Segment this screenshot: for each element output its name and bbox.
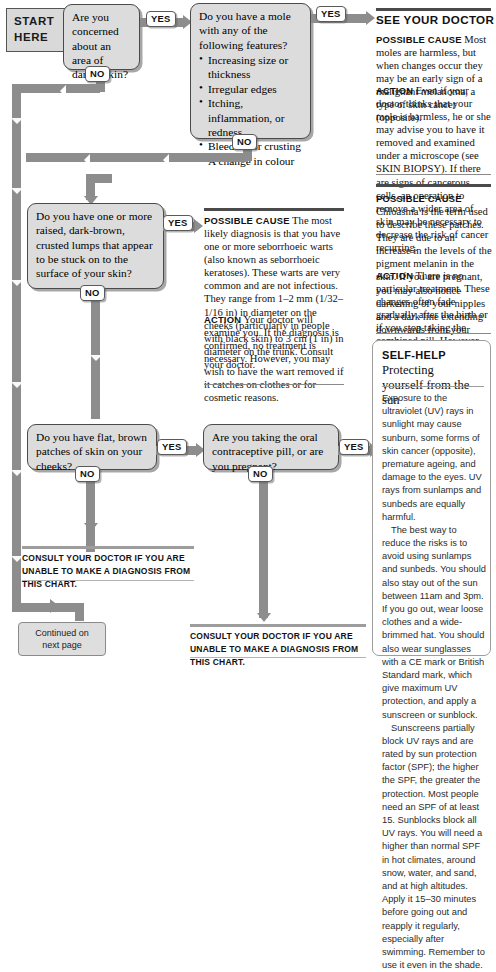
connector-q2-no-horz [26, 153, 247, 162]
self-help-body: Exposure to the ultraviolet (UV) rays in… [382, 392, 487, 972]
advice-label-action-1: ACTION [376, 85, 413, 96]
pill-no-q3[interactable]: NO [80, 285, 105, 301]
advice-heading-see-your-doctor: SEE YOUR DOCTOR [376, 13, 496, 26]
pill-yes-q2[interactable]: YES [316, 6, 346, 22]
connector-trunk-to-continued [12, 603, 84, 612]
rule-below-advice-1 [376, 174, 491, 175]
pill-no-q5[interactable]: NO [248, 466, 273, 482]
question-q3-text: Do you have one or more raised, dark-bro… [36, 209, 156, 281]
rule-below-advice-3 [376, 333, 491, 334]
chevron-left-q1-no [60, 85, 66, 97]
rule-above-see-your-doctor [376, 8, 491, 11]
chevron-left-q2-no-a [163, 154, 169, 166]
chevron-down-trunk-2 [11, 188, 23, 194]
consult-note-right: CONSULT YOUR DOCTOR IF YOU ARE UNABLE TO… [190, 630, 372, 669]
self-help-paragraph-2: The best way to reduce the risks is to a… [382, 524, 487, 722]
connector-q3-no [91, 288, 100, 419]
self-help-paragraph-3: Sunscreens partially block UV rays and a… [382, 722, 487, 972]
continued-next-page-box[interactable]: Continued on next page [18, 622, 106, 656]
chevron-down-trunk-4 [11, 382, 23, 388]
arrow-q3-yes [194, 219, 203, 233]
list-item: Increasing size or thickness [199, 53, 303, 82]
advice-label-possible-cause-2: POSSIBLE CAUSE [204, 215, 290, 226]
bar-above-consult-right [190, 624, 366, 627]
chevron-left-q2-no-b [84, 154, 90, 166]
connector-q5-no [259, 469, 268, 618]
chevron-down-trunk-6 [11, 556, 23, 562]
chevron-down-trunk-5 [11, 470, 23, 476]
pill-yes-q1[interactable]: YES [146, 11, 176, 27]
rule-above-seborrhoeic [204, 208, 344, 211]
self-help-kicker: SELF-HELP [382, 349, 446, 361]
rule-below-advice-2 [204, 384, 344, 385]
arrow-q5-no [257, 613, 271, 622]
bar-below-consult-right [190, 657, 366, 658]
advice-text-action-2: Your doctor will examine you. If the dia… [204, 314, 343, 403]
consult-note-left: CONSULT YOUR DOCTOR IF YOU ARE UNABLE TO… [22, 552, 200, 591]
question-box-q2[interactable]: Do you have a mole with any of the follo… [190, 3, 311, 139]
arrow-q2-yes [366, 11, 375, 25]
pill-no-q2[interactable]: NO [232, 134, 257, 150]
continued-line-2: next page [25, 639, 99, 651]
pill-yes-q5[interactable]: YES [339, 439, 369, 455]
self-help-paragraph-1: Exposure to the ultraviolet (UV) rays in… [382, 392, 487, 524]
bar-below-consult-left [22, 580, 194, 581]
connector-q1-no-horz [12, 84, 100, 93]
advice-label-possible-cause-1: POSSIBLE CAUSE [376, 34, 462, 45]
question-q2-lead: Do you have a mole with any of the follo… [199, 9, 303, 52]
self-help-rule [382, 386, 484, 387]
connector-main-trunk [12, 84, 21, 612]
list-item: Irregular edges [199, 82, 303, 96]
self-help-title-rest: Protecting [382, 363, 434, 377]
question-box-q5[interactable]: Are you taking the oral contraceptive pi… [203, 424, 339, 470]
list-item: Itching, inflammation, or redness [199, 96, 303, 139]
arrow-q4-no [84, 523, 98, 532]
chevron-down-q3-no [90, 355, 102, 361]
continued-line-1: Continued on [25, 627, 99, 639]
chevron-down-trunk-1 [11, 118, 23, 124]
advice-body-action-2: ACTION Your doctor will examine you. If … [204, 313, 345, 405]
chevron-down-trunk-3 [11, 280, 23, 286]
advice-label-possible-cause-3: POSSIBLE CAUSE [376, 193, 462, 204]
question-box-q1[interactable]: Are you concerned about an area of darke… [63, 4, 140, 70]
pill-no-q1[interactable]: NO [85, 66, 110, 82]
pill-yes-q3[interactable]: YES [163, 215, 193, 231]
connector-continued-drop [75, 603, 84, 621]
pill-yes-q4[interactable]: YES [157, 439, 187, 455]
question-box-q3[interactable]: Do you have one or more raised, dark-bro… [27, 203, 164, 289]
advice-label-action-3: ACTION [376, 270, 413, 281]
rule-above-chloasma [376, 184, 491, 187]
arrow-trunk-elbow [50, 599, 59, 613]
bar-above-consult-left [22, 546, 194, 549]
pill-no-q4[interactable]: NO [75, 466, 100, 482]
question-box-q4[interactable]: Do you have flat, brown patches of skin … [27, 424, 157, 470]
advice-label-action-2: ACTION [204, 314, 241, 325]
